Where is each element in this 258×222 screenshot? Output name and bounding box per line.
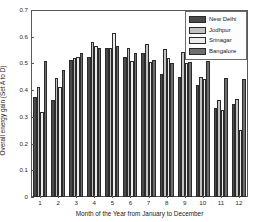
bar <box>80 53 84 197</box>
y-tick-mark <box>31 170 34 171</box>
bar <box>98 48 102 197</box>
bar-group <box>105 0 119 197</box>
y-tick-mark <box>31 117 34 118</box>
y-tick-label: 0.7 <box>19 7 28 13</box>
legend-swatch <box>189 16 206 23</box>
x-tick-label: 2 <box>56 200 59 206</box>
y-tick-label: 0 <box>25 194 28 200</box>
bar <box>206 61 210 197</box>
x-tick-mark <box>58 195 59 198</box>
bar <box>116 46 120 197</box>
x-tick-label: 3 <box>74 200 77 206</box>
y-tick-mark <box>31 37 34 38</box>
legend-item: Bangalore <box>188 46 244 56</box>
bar <box>188 62 192 197</box>
y-tick-label: 0.5 <box>19 60 28 66</box>
x-tick-mark <box>239 195 240 198</box>
x-tick-mark <box>76 195 77 198</box>
x-tick-label: 1 <box>38 200 41 206</box>
bar <box>134 53 138 197</box>
legend-swatch <box>189 37 206 44</box>
bar-group <box>51 0 65 197</box>
x-tick-mark <box>40 195 41 198</box>
bar-group <box>123 0 137 197</box>
y-tick-mark <box>31 144 34 145</box>
legend-swatch <box>189 27 206 34</box>
bar <box>242 79 246 197</box>
x-tick-label: 8 <box>165 200 168 206</box>
y-tick-mark <box>31 90 34 91</box>
x-tick-label: 12 <box>236 200 243 206</box>
y-axis-title: Overall energy gain (Set A to D) <box>0 36 6 186</box>
y-tick-label: 0.3 <box>19 114 28 120</box>
x-tick-mark <box>167 195 168 198</box>
x-tick-mark <box>221 195 222 198</box>
bar <box>44 61 48 197</box>
x-tick-mark <box>94 195 95 198</box>
x-tick-label: 4 <box>93 200 96 206</box>
x-tick-label: 5 <box>111 200 114 206</box>
legend-item: Srinagar <box>188 36 244 46</box>
bar-group <box>141 0 155 197</box>
bar <box>170 63 174 197</box>
bar <box>152 60 156 197</box>
bar-group <box>69 0 83 197</box>
y-tick-label: 0.4 <box>19 87 28 93</box>
bar-group <box>33 0 47 197</box>
bar <box>62 70 66 197</box>
y-tick-label: 0.2 <box>19 141 28 147</box>
x-tick-mark <box>112 195 113 198</box>
legend-label: Srinagar <box>209 37 232 44</box>
x-tick-label: 6 <box>129 200 132 206</box>
y-tick-label: 0.6 <box>19 34 28 40</box>
legend-item: Jodhpur <box>188 25 244 35</box>
chart-figure: 00.10.20.30.40.50.60.7 Overall energy ga… <box>0 0 258 222</box>
legend-item: New Delhi <box>188 15 244 25</box>
legend-swatch <box>189 48 206 55</box>
x-tick-label: 10 <box>199 200 206 206</box>
x-axis-title: Month of the Year from January to Decemb… <box>31 210 248 218</box>
legend-label: Bangalore <box>209 48 236 55</box>
x-tick-mark <box>130 195 131 198</box>
bar-group <box>87 0 101 197</box>
y-tick-mark <box>31 10 34 11</box>
legend: New DelhiJodhpurSrinagarBangalore <box>185 11 247 60</box>
y-tick-label: 0.1 <box>19 167 28 173</box>
legend-label: Jodhpur <box>209 27 231 34</box>
x-tick-mark <box>149 195 150 198</box>
x-tick-label: 7 <box>147 200 150 206</box>
y-tick-mark <box>31 63 34 64</box>
x-tick-mark <box>185 195 186 198</box>
x-tick-mark <box>203 195 204 198</box>
x-tick-label: 11 <box>218 200 224 206</box>
bar-group <box>160 0 174 197</box>
x-axis: 123456789101112 <box>31 198 248 210</box>
legend-label: New Delhi <box>209 16 236 23</box>
x-tick-label: 9 <box>183 200 186 206</box>
bar <box>224 78 228 197</box>
